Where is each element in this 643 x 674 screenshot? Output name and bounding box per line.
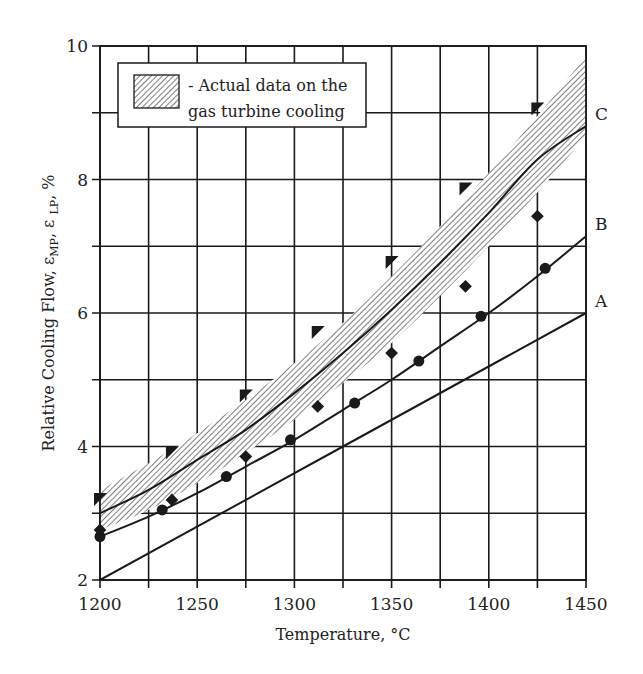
y-tick-label: 8 — [77, 170, 88, 190]
curve-label-c: C — [595, 104, 608, 124]
y-tick-label: 10 — [66, 36, 88, 56]
square-marker — [312, 326, 325, 339]
y-tick-labels: 246810 — [66, 36, 88, 590]
circle-marker — [285, 434, 296, 445]
y-tick-label: 4 — [77, 437, 88, 457]
circle-marker — [157, 504, 168, 515]
legend-hatch-swatch — [134, 75, 179, 108]
curve-label-a: A — [594, 291, 608, 311]
legend-line-1: - Actual data on the — [188, 76, 348, 95]
x-tick-label: 1200 — [78, 594, 121, 614]
y-tick-label: 2 — [77, 570, 88, 590]
legend: - Actual data on the gas turbine cooling — [118, 63, 366, 127]
circle-marker — [476, 311, 487, 322]
cooling-flow-chart: 120012501300135014001450 246810 ABC - Ac… — [0, 0, 643, 674]
diamond-marker — [459, 280, 472, 293]
x-tick-label: 1300 — [273, 594, 316, 614]
x-tick-label: 1450 — [564, 594, 607, 614]
circle-marker — [540, 263, 551, 274]
diamond-marker — [385, 347, 398, 360]
x-tick-labels: 120012501300135014001450 — [78, 594, 607, 614]
circle-marker — [221, 471, 232, 482]
curve-label-b: B — [595, 214, 608, 234]
x-tick-label: 1250 — [176, 594, 219, 614]
y-tick-label: 6 — [77, 303, 88, 323]
diamond-marker — [531, 210, 544, 223]
x-tick-label: 1400 — [467, 594, 510, 614]
circle-marker — [413, 356, 424, 367]
x-tick-label: 1350 — [370, 594, 413, 614]
circle-marker — [349, 398, 360, 409]
x-axis-title: Temperature, °C — [275, 625, 410, 644]
curve-labels: ABC — [594, 104, 608, 311]
y-axis-title: Relative Cooling Flow, εMP, ε LP, % — [39, 174, 61, 451]
legend-line-2: gas turbine cooling — [188, 102, 345, 121]
